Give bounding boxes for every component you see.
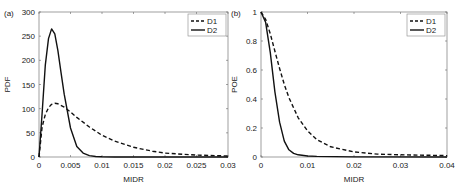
y-tick-label: 0.2 [246, 124, 258, 133]
legend-entry: D2 [426, 26, 437, 35]
x-tick-label: 0 [259, 161, 264, 170]
y-tick-label: 0.6 [246, 66, 258, 75]
y-tick-label: 200 [22, 56, 36, 65]
x-tick-label: 0.02 [346, 161, 362, 170]
x-tick-label: 0.02 [157, 161, 173, 170]
x-axis-label: MIDR [344, 175, 365, 184]
x-tick-label: 0 [37, 161, 42, 170]
y-tick-label: 0.8 [246, 37, 258, 46]
x-tick-label: 0.01 [300, 161, 316, 170]
x-tick-label: 0.04 [439, 161, 455, 170]
y-tick-label: 1 [253, 8, 258, 17]
legend-entry: D2 [207, 26, 218, 35]
chart-panel-b: 00.010.020.030.0400.20.40.60.81MIDRPOE(b… [230, 8, 455, 184]
legend-entry: D1 [207, 17, 218, 26]
x-tick-label: 0.01 [94, 161, 110, 170]
x-tick-label: 0.025 [186, 161, 207, 170]
x-tick-label: 0.03 [220, 161, 236, 170]
x-tick-label: 0.03 [393, 161, 409, 170]
x-tick-label: 0.005 [60, 161, 81, 170]
chart-figure: 00.0050.010.0150.020.0250.03050100150200… [0, 0, 458, 186]
y-tick-label: 0 [31, 153, 36, 162]
panel-label: (a) [4, 9, 14, 18]
y-tick-label: 0 [253, 153, 258, 162]
y-axis-label: PDF [3, 76, 12, 92]
x-axis-label: MIDR [123, 175, 144, 184]
chart-panel-a: 00.0050.010.0150.020.0250.03050100150200… [3, 8, 236, 184]
x-tick-label: 0.015 [123, 161, 144, 170]
y-tick-label: 50 [26, 129, 35, 138]
legend-entry: D1 [426, 17, 437, 26]
y-tick-label: 0.4 [246, 95, 258, 104]
y-tick-label: 300 [22, 8, 36, 17]
panel-label: (b) [231, 9, 241, 18]
series-line-d2 [39, 29, 228, 157]
y-tick-label: 150 [22, 81, 36, 90]
y-axis-label: POE [230, 76, 239, 93]
y-tick-label: 100 [22, 105, 36, 114]
y-tick-label: 250 [22, 32, 36, 41]
